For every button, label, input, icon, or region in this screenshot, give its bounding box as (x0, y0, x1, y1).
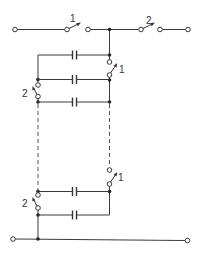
switch-label: 1 (70, 13, 76, 24)
capacitor-icon (73, 51, 77, 60)
switch-label: 2 (22, 198, 28, 209)
switch-upper-right (107, 60, 117, 78)
capacitor-row-2 (38, 75, 110, 84)
right-rail-upper: 1 (107, 30, 125, 104)
capacitor-row-5 (38, 211, 110, 220)
capacitor-icon (73, 75, 77, 84)
bottom-line (11, 237, 190, 243)
capacitor-row-3 (38, 98, 110, 107)
switch-lower-right (107, 168, 117, 187)
switch-upper-left (32, 83, 40, 99)
switch-label: 1 (119, 64, 125, 75)
output-terminal-bottom-right (185, 238, 190, 243)
capacitor-icon (73, 187, 77, 196)
switch-label: 2 (146, 15, 152, 26)
capacitor-row-4 (38, 187, 110, 196)
input-terminal-bottom-left (11, 237, 16, 242)
circuit-diagram: 1 2 1 (0, 0, 202, 254)
switch-label: 2 (22, 88, 28, 99)
input-terminal-left (13, 27, 18, 32)
capacitor-icon (73, 211, 77, 220)
capacitor-icon (73, 98, 77, 107)
switch-lower-left (32, 193, 40, 211)
capacitor-row-1 (38, 51, 110, 60)
top-line: 1 2 (13, 13, 191, 32)
output-terminal-right (186, 27, 191, 32)
switch-top-1 (65, 23, 91, 32)
switch-label: 1 (118, 172, 124, 183)
junction-dot (36, 237, 40, 241)
